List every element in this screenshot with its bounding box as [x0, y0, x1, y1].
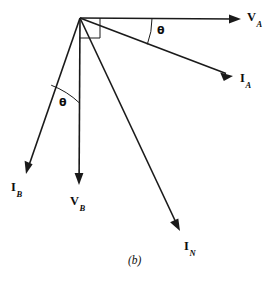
phasor-diagram-canvas: [0, 0, 272, 286]
vector-va-arrowhead: [229, 15, 241, 24]
angle-label-theta-a: θ: [157, 25, 165, 36]
vector-label-ib: IB: [11, 181, 22, 196]
vector-label-vb-main: V: [70, 194, 79, 208]
vector-label-ia-sub: A: [245, 80, 251, 90]
vector-vb-arrowhead: [75, 173, 84, 185]
vector-in-arrowhead: [170, 218, 180, 231]
phasor-diagram-figure: VA IA IB VB IN θ θ (b): [0, 0, 272, 286]
vector-label-vb: VB: [70, 195, 85, 210]
figure-caption: (b): [128, 255, 141, 267]
vector-ia-arrowhead: [220, 73, 233, 81]
angle-arc-theta-a: [147, 18, 152, 44]
vector-label-vb-sub: B: [80, 203, 86, 213]
vector-vb: [75, 18, 84, 185]
vector-label-in-sub: N: [189, 248, 195, 258]
vector-label-ia: IA: [240, 72, 251, 87]
vector-ib-line: [28, 18, 80, 167]
angle-label-theta-b: θ: [59, 97, 67, 108]
vector-label-va-sub: A: [257, 19, 263, 29]
vector-va-line: [80, 18, 234, 19]
vector-label-va-main: V: [247, 10, 256, 24]
vector-label-ib-sub: B: [16, 189, 22, 199]
vector-ib-arrowhead: [25, 161, 33, 174]
vector-label-in: IN: [184, 240, 195, 255]
vector-va: [80, 15, 241, 24]
vector-vb-line: [79, 18, 80, 178]
vector-label-va: VA: [247, 11, 262, 26]
